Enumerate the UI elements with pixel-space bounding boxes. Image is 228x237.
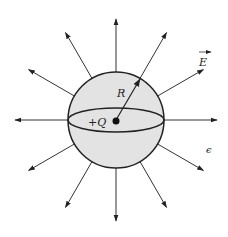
field-line-arrow (140, 33, 167, 79)
radius-label: R (116, 87, 125, 100)
field-line-arrow (29, 144, 75, 171)
point-charge (113, 118, 120, 125)
charge-label: +Q (88, 116, 106, 129)
field-line-arrow (158, 70, 204, 97)
field-line-arrow (66, 162, 93, 208)
field-line-arrow (140, 162, 167, 208)
field-line-arrow (158, 144, 204, 171)
permittivity-label: ϵ (206, 144, 212, 155)
field-label: E (198, 56, 207, 69)
field-line-arrow (29, 70, 75, 97)
field-line-arrow (66, 33, 93, 79)
field-vector-label: E (198, 52, 211, 69)
charged-sphere-diagram: +Q R E ϵ (0, 0, 228, 237)
